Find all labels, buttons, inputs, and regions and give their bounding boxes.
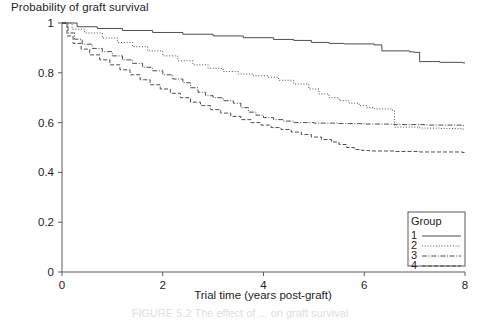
curve-group-2 <box>62 23 465 129</box>
x-tick-label: 8 <box>462 279 468 291</box>
x-tick-label: 0 <box>59 279 65 291</box>
chart-svg: 00.20.40.60.81 02468 Trial time (years p… <box>0 0 481 321</box>
curve-group-4 <box>62 23 465 152</box>
legend-label-4: 4 <box>411 259 417 271</box>
x-axis-title: Trial time (years post-graft) <box>194 289 332 301</box>
figure-caption: FIGURE 5.2 The effect of ... on graft su… <box>132 307 349 319</box>
plot-area: 00.20.40.60.81 02468 Trial time (years p… <box>0 0 481 321</box>
y-tick-label: 0.2 <box>38 216 54 228</box>
y-axis-ticks: 00.20.40.60.81 <box>38 17 62 278</box>
y-tick-label: 0.8 <box>38 67 54 79</box>
x-tick-label: 6 <box>361 279 367 291</box>
y-tick-label: 1 <box>48 17 54 29</box>
legend-title: Group <box>411 215 442 227</box>
figure-container: Probability of graft survival 00.20.40.6… <box>0 0 481 321</box>
legend[interactable]: Group 1234 <box>408 212 465 271</box>
y-tick-label: 0.4 <box>38 166 55 178</box>
x-tick-label: 2 <box>160 279 166 291</box>
y-tick-label: 0.6 <box>38 117 54 129</box>
y-tick-label: 0 <box>48 266 54 278</box>
axis-frame <box>62 23 465 272</box>
survival-curves <box>62 23 465 152</box>
curve-group-3 <box>62 23 465 126</box>
